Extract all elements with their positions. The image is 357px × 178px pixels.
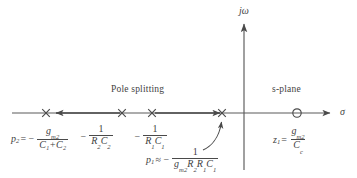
rc1-label: − 1 R1C1: [133, 124, 168, 149]
real-axis-label: σ: [340, 107, 345, 117]
s-plane-pole-zero-figure: jω σ Pole splitting s-plane p2 = − gm2 C…: [0, 0, 357, 178]
z1-label: z1 = gm2 Cc: [273, 126, 308, 154]
p2-label: p2 = − gm2 C₁+C₂: [11, 126, 70, 151]
pole-splitting-annotation: Pole splitting: [111, 85, 164, 95]
rc2-label: − 1 R2C2: [79, 124, 114, 149]
p1-label: p1 ≈ − 1 gm2R2R1C1: [146, 147, 220, 172]
s-plane-annotation: s-plane: [272, 85, 301, 95]
imaginary-axis-label: jω: [239, 6, 249, 16]
p1-denominator: gm2R2R1C1: [172, 158, 218, 172]
